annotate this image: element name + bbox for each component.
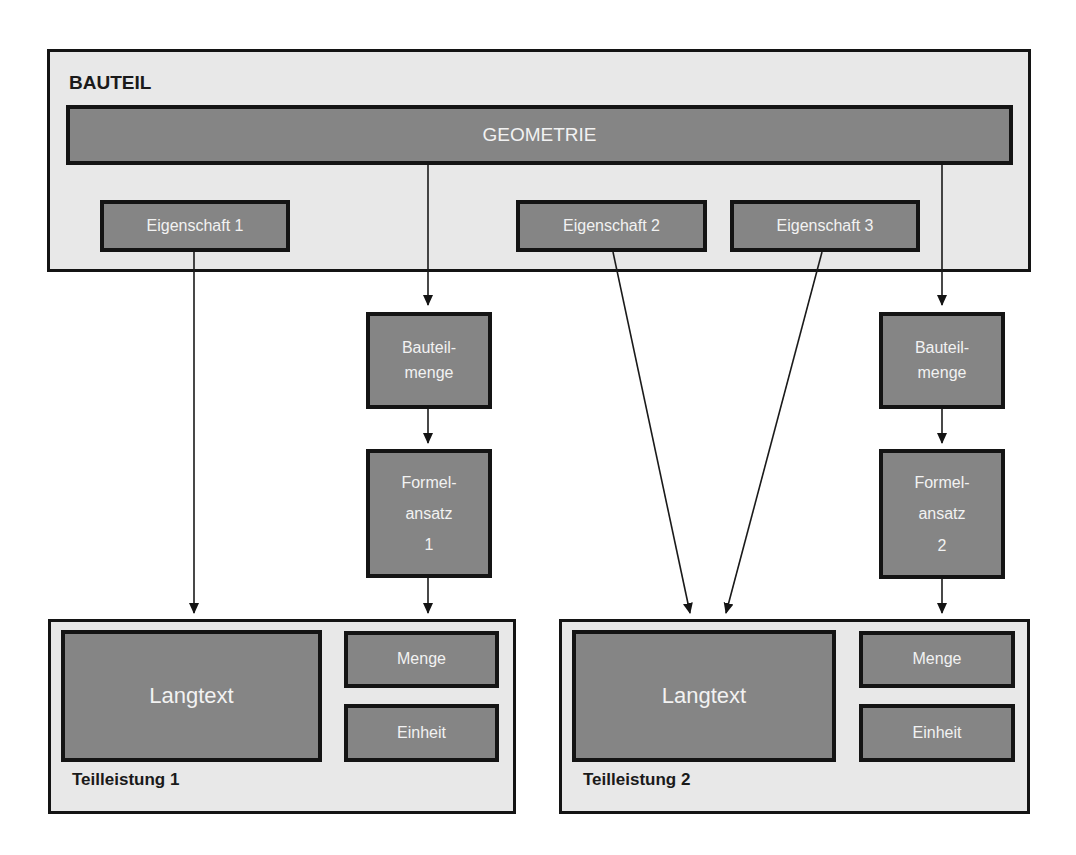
eigenschaft-1-box: Eigenschaft 1: [100, 200, 290, 252]
bauteilmenge-1-box: Bauteil- menge: [366, 312, 492, 409]
teilleistung-1-einheit-label: Einheit: [397, 721, 446, 746]
bauteil-title: BAUTEIL: [69, 72, 151, 94]
teilleistung-1-menge-box: Menge: [344, 631, 499, 688]
bauteilmenge-2-line1: Bauteil-: [915, 336, 969, 361]
teilleistung-2-menge-box: Menge: [859, 631, 1015, 688]
eigenschaft-3-box: Eigenschaft 3: [730, 200, 920, 252]
formelansatz-1-line1: Formel-: [401, 467, 456, 498]
bauteilmenge-1-line2: menge: [402, 361, 456, 386]
eigenschaft-2-label: Eigenschaft 2: [563, 214, 660, 239]
bauteilmenge-2-box: Bauteil- menge: [879, 312, 1005, 409]
formelansatz-2-box: Formel- ansatz 2: [879, 449, 1005, 579]
formelansatz-2-line2: ansatz: [914, 498, 969, 529]
teilleistung-2-langtext-box: Langtext: [572, 630, 836, 762]
formelansatz-2-number: 2: [914, 530, 969, 561]
teilleistung-1-langtext-box: Langtext: [61, 630, 322, 762]
teilleistung-1-title: Teilleistung 1: [72, 770, 179, 790]
geometrie-box: GEOMETRIE: [66, 105, 1013, 165]
teilleistung-1-einheit-box: Einheit: [344, 704, 499, 762]
arrow-eigenschaft3-to-langtext2: [726, 252, 822, 613]
teilleistung-2-einheit-label: Einheit: [913, 721, 962, 746]
eigenschaft-2-box: Eigenschaft 2: [516, 200, 707, 252]
teilleistung-2-menge-label: Menge: [913, 647, 962, 672]
formelansatz-1-number: 1: [401, 529, 456, 560]
bauteilmenge-2-line2: menge: [915, 361, 969, 386]
eigenschaft-3-label: Eigenschaft 3: [777, 214, 874, 239]
formelansatz-1-line2: ansatz: [401, 498, 456, 529]
formelansatz-2-line1: Formel-: [914, 467, 969, 498]
teilleistung-2-langtext-label: Langtext: [662, 679, 746, 713]
teilleistung-1-langtext-label: Langtext: [149, 679, 233, 713]
geometrie-label: GEOMETRIE: [482, 120, 596, 149]
arrow-eigenschaft2-to-langtext2: [613, 252, 690, 613]
teilleistung-1-menge-label: Menge: [397, 647, 446, 672]
eigenschaft-1-label: Eigenschaft 1: [147, 214, 244, 239]
bauteilmenge-1-line1: Bauteil-: [402, 336, 456, 361]
formelansatz-1-box: Formel- ansatz 1: [366, 449, 492, 578]
teilleistung-2-title: Teilleistung 2: [583, 770, 690, 790]
teilleistung-2-einheit-box: Einheit: [859, 704, 1015, 762]
